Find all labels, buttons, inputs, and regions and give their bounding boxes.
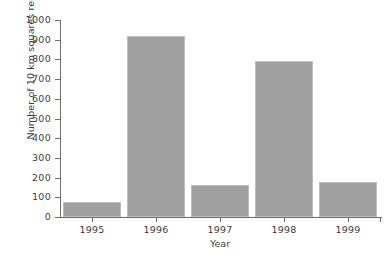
- x-tick-mark-1999: [348, 218, 349, 222]
- bar-1996: [127, 36, 185, 217]
- y-tick-label: 800: [0, 53, 51, 64]
- y-tick-label: 600: [0, 93, 51, 104]
- y-tick-label: 500: [0, 113, 51, 124]
- bar-chart: Number of 10 km squares recorded 0100200…: [0, 0, 391, 259]
- x-tick-mark-1997: [220, 218, 221, 222]
- y-tick-label: 200: [0, 172, 51, 183]
- plot-area: [60, 20, 380, 217]
- y-tick-label: 400: [0, 132, 51, 143]
- bar-1998: [255, 61, 313, 217]
- x-tick-label-1996: 1996: [126, 224, 186, 235]
- y-tick-mark: [55, 217, 60, 218]
- y-tick-label: 100: [0, 191, 51, 202]
- x-tick-mark-1996: [156, 218, 157, 222]
- x-tick-label-1997: 1997: [190, 224, 250, 235]
- x-tick-label-1999: 1999: [318, 224, 378, 235]
- bar-1997: [191, 185, 249, 217]
- bar-1999: [319, 182, 377, 217]
- x-tick-mark-1998: [284, 218, 285, 222]
- y-tick-label: 700: [0, 73, 51, 84]
- y-tick-label: 0: [0, 211, 51, 222]
- x-tick-label-1998: 1998: [254, 224, 314, 235]
- y-tick-label: 300: [0, 152, 51, 163]
- x-tick-mark-1995: [92, 218, 93, 222]
- x-axis-line: [60, 217, 382, 218]
- x-axis-title: Year: [60, 238, 380, 249]
- x-axis-end-tick: [380, 218, 381, 222]
- y-tick-label: 1000: [0, 14, 51, 25]
- y-tick-label: 900: [0, 34, 51, 45]
- bar-1995: [63, 202, 121, 217]
- x-tick-label-1995: 1995: [62, 224, 122, 235]
